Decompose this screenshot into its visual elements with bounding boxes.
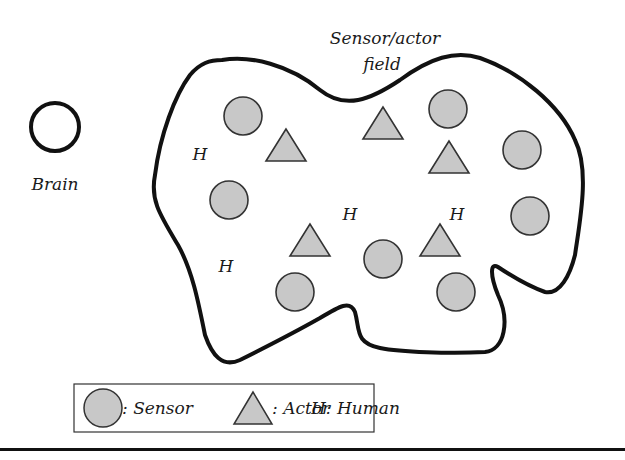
- actor-node: [266, 129, 306, 161]
- human-label: H: [192, 144, 209, 164]
- legend-sensor-label: : Sensor: [122, 398, 194, 418]
- actors-group: [266, 107, 469, 256]
- actor-node: [429, 141, 469, 173]
- bottom-rule: [0, 448, 625, 451]
- sensor-node: [210, 181, 248, 219]
- sensor-node: [437, 273, 475, 311]
- sensor-node: [364, 240, 402, 278]
- sensor-node: [429, 90, 467, 128]
- brain-label: Brain: [30, 174, 78, 194]
- actor-node: [363, 107, 403, 139]
- field-label-line1: Sensor/actor: [330, 28, 441, 48]
- sensor-node: [511, 197, 549, 235]
- human-label: H: [449, 204, 466, 224]
- sensor-node: [224, 97, 262, 135]
- field-label-line2: field: [361, 54, 401, 74]
- actor-node: [420, 224, 460, 256]
- legend-human-label: H: Human: [310, 398, 400, 418]
- sensor-node: [276, 273, 314, 311]
- sensor-actor-diagram: Brain Sensor/actor field HHHH : Sensor :…: [0, 0, 625, 460]
- sensor-node: [503, 131, 541, 169]
- actor-node: [290, 224, 330, 256]
- legend-sensor-icon: [84, 389, 122, 427]
- brain-circle: [31, 103, 79, 151]
- human-label: H: [218, 256, 235, 276]
- human-label: H: [342, 204, 359, 224]
